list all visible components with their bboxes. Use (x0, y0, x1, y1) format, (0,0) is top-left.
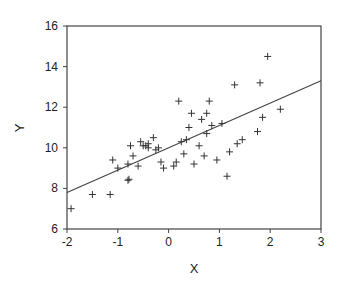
data-points (68, 53, 284, 212)
plot-frame (67, 26, 321, 229)
plus-marker-icon (203, 130, 210, 137)
y-tick-label: 6 (51, 222, 58, 236)
plus-marker-icon (188, 110, 195, 117)
plus-marker-icon (127, 142, 134, 149)
y-tick-label: 14 (45, 60, 59, 74)
plus-marker-icon (231, 81, 238, 88)
y-axis-label: Y (12, 123, 27, 132)
plus-marker-icon (89, 191, 96, 198)
plus-marker-icon (259, 114, 266, 121)
x-axis: -2-10123 (62, 229, 325, 249)
plus-marker-icon (135, 163, 142, 170)
y-tick-label: 16 (45, 19, 59, 33)
regression-line (67, 81, 321, 193)
plus-marker-icon (196, 142, 203, 149)
plus-marker-icon (68, 205, 75, 212)
plus-marker-icon (257, 79, 264, 86)
plot-border (67, 26, 321, 229)
plus-marker-icon (254, 128, 261, 135)
scatter-chart: 6810121416 -2-10123 X Y (0, 0, 342, 294)
x-tick-label: 1 (216, 235, 223, 249)
plus-marker-icon (239, 136, 246, 143)
plus-marker-icon (150, 134, 157, 141)
x-tick-label: 0 (165, 235, 172, 249)
x-axis-label: X (190, 261, 199, 276)
plus-marker-icon (234, 140, 241, 147)
plus-marker-icon (125, 176, 132, 183)
plus-marker-icon (206, 98, 213, 105)
plus-marker-icon (213, 156, 220, 163)
plus-marker-icon (203, 110, 210, 117)
y-axis: 6810121416 (45, 19, 67, 236)
x-tick-label: -1 (112, 235, 123, 249)
plus-marker-icon (109, 156, 116, 163)
fit-line (67, 81, 321, 193)
plus-marker-icon (198, 116, 205, 123)
plus-marker-icon (224, 173, 231, 180)
plus-marker-icon (226, 148, 233, 155)
plus-marker-icon (157, 159, 164, 166)
plus-marker-icon (175, 98, 182, 105)
plus-marker-icon (130, 152, 137, 159)
x-tick-label: 3 (318, 235, 325, 249)
plus-marker-icon (107, 191, 114, 198)
plus-marker-icon (191, 161, 198, 168)
plus-marker-icon (185, 124, 192, 131)
plus-marker-icon (277, 106, 284, 113)
plus-marker-icon (114, 165, 121, 172)
y-tick-label: 12 (45, 100, 59, 114)
y-tick-label: 10 (45, 141, 59, 155)
plus-marker-icon (201, 152, 208, 159)
x-tick-label: 2 (267, 235, 274, 249)
y-tick-label: 8 (51, 181, 58, 195)
plus-marker-icon (180, 150, 187, 157)
plus-marker-icon (160, 165, 167, 172)
plus-marker-icon (124, 177, 131, 184)
plus-marker-icon (264, 53, 271, 60)
x-tick-label: -2 (62, 235, 73, 249)
